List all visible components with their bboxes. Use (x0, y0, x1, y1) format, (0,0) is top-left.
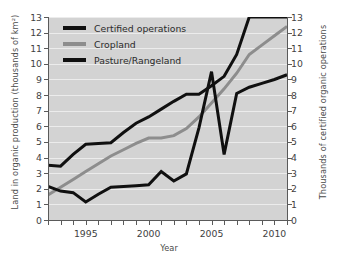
y-tickmark-left (44, 111, 48, 112)
x-tickmark (186, 221, 187, 225)
legend-label-pasture-rangeland: Pasture/Rangeland (94, 55, 181, 66)
x-tickmark (86, 221, 87, 225)
legend-label-certified-operations: Certified operations (94, 23, 186, 34)
y-tickmark-left (44, 158, 48, 159)
y-axis-spine-left (48, 17, 49, 220)
y-tickmark-right (288, 220, 292, 221)
x-tickmark (136, 221, 137, 225)
x-tickmark (199, 221, 200, 225)
x-tickmark (287, 221, 288, 225)
y-tickmark-left (44, 126, 48, 127)
x-tick-label: 2005 (192, 228, 232, 239)
y-tickmark-right (288, 111, 292, 112)
y-tick-label: 7 (30, 106, 42, 115)
x-tickmark (161, 221, 162, 225)
legend-swatch-pasture-rangeland (63, 58, 86, 62)
y-tickmark-left (44, 17, 48, 18)
y-tickmark-left (44, 79, 48, 80)
chart-legend: Certified operations Cropland Pasture/Ra… (63, 20, 228, 68)
y-tick-label: 3 (30, 169, 42, 178)
y-tick-label: 8 (291, 91, 303, 100)
x-tick-label: 2000 (129, 228, 169, 239)
y-tick-label: 1 (30, 200, 42, 209)
y-tick-label: 0 (291, 216, 303, 225)
legend-label-cropland: Cropland (94, 39, 136, 50)
y-tick-label: 9 (30, 75, 42, 84)
y-tick-label: 9 (291, 75, 303, 84)
x-tickmark (149, 221, 150, 225)
y-tickmark-right (288, 95, 292, 96)
y-tickmark-left (44, 142, 48, 143)
y-tick-label: 2 (291, 184, 303, 193)
y-tickmark-right (288, 64, 292, 65)
x-tickmark (224, 221, 225, 225)
y-tickmark-right (288, 189, 292, 190)
y-tickmark-left (44, 48, 48, 49)
legend-swatch-certified-operations (63, 26, 86, 30)
y-tickmark-right (288, 142, 292, 143)
x-tickmark (262, 221, 263, 225)
x-axis-label: Year (0, 243, 338, 253)
y-tick-label: 12 (30, 28, 42, 37)
x-tick-label: 2010 (254, 228, 294, 239)
y-tickmark-right (288, 48, 292, 49)
chart-figure: Land in organic production (thousands of… (0, 0, 338, 260)
y-tick-label: 5 (30, 137, 42, 146)
y-tick-label: 1 (291, 200, 303, 209)
y-tick-label: 5 (291, 137, 303, 146)
x-tickmark (61, 221, 62, 225)
y-tick-label: 0 (30, 216, 42, 225)
y-tickmark-right (288, 79, 292, 80)
y-tickmark-left (44, 95, 48, 96)
y-tick-label: 10 (30, 59, 42, 68)
x-tickmark (111, 221, 112, 225)
y-tick-label: 7 (291, 106, 303, 115)
x-tickmark (249, 221, 250, 225)
x-tickmark (174, 221, 175, 225)
y-tickmark-left (44, 33, 48, 34)
x-tickmark (274, 221, 275, 225)
y-axis-ticks-left: 012345678910111213 (18, 0, 42, 260)
x-tick-label: 1995 (66, 228, 106, 239)
y-tickmark-right (288, 126, 292, 127)
legend-item-cropland: Cropland (63, 36, 228, 52)
y-tick-label: 6 (30, 122, 42, 131)
y-tick-label: 8 (30, 91, 42, 100)
y-tick-label: 12 (291, 28, 303, 37)
legend-item-certified-operations: Certified operations (63, 20, 228, 36)
y-tickmark-right (288, 158, 292, 159)
y-tick-label: 11 (291, 44, 303, 53)
y-axis-label-right: Thousands of certified organic operation… (318, 1, 328, 223)
y-tick-label: 4 (30, 153, 42, 162)
x-tickmark (237, 221, 238, 225)
legend-swatch-cropland (63, 42, 86, 46)
y-tick-label: 3 (291, 169, 303, 178)
y-axis-ticks-right: 012345678910111213 (291, 0, 315, 260)
y-tick-label: 4 (291, 153, 303, 162)
y-tickmark-left (44, 189, 48, 190)
x-tickmark (212, 221, 213, 225)
y-tickmark-left (44, 173, 48, 174)
y-tick-label: 13 (291, 13, 303, 22)
y-tick-label: 2 (30, 184, 42, 193)
y-tick-label: 6 (291, 122, 303, 131)
x-tickmark (98, 221, 99, 225)
x-axis-spine (48, 220, 288, 221)
y-tickmark-right (288, 33, 292, 34)
legend-item-pasture-rangeland: Pasture/Rangeland (63, 52, 228, 68)
y-tick-label: 13 (30, 13, 42, 22)
y-tick-label: 11 (30, 44, 42, 53)
x-tickmark (123, 221, 124, 225)
y-tickmark-right (288, 173, 292, 174)
x-tickmark (73, 221, 74, 225)
x-tickmark (48, 221, 49, 225)
y-tickmark-left (44, 204, 48, 205)
y-tickmark-right (288, 17, 292, 18)
y-tickmark-left (44, 64, 48, 65)
y-tickmark-right (288, 204, 292, 205)
y-tick-label: 10 (291, 59, 303, 68)
